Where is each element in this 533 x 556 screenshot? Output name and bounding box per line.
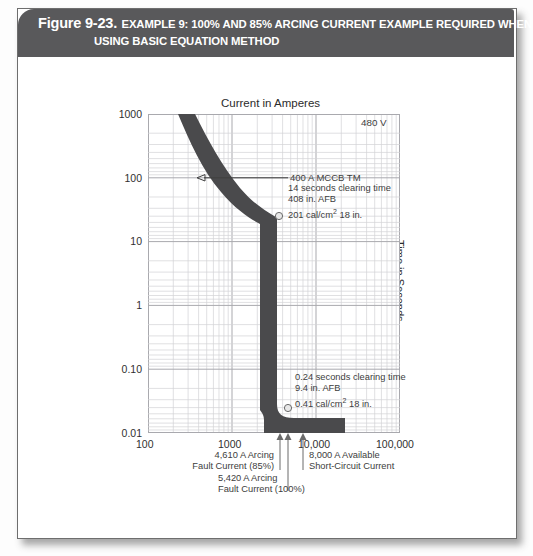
callout-available-sc-line-2: Short-Circuit Current [309,461,394,472]
upper-annotation-line-2: 408 in. AFB [288,194,391,205]
figure-caption-line-2: USING BASIC EQUATION METHOD [94,32,502,49]
figure-number: Figure 9-23. [38,15,117,31]
arrow-4610 [277,433,284,440]
callout-available-sc-line-1: 8,000 A Available [309,450,394,461]
figure-banner: Figure 9-23. EXAMPLE 9: 100% AND 85% ARC… [18,9,514,57]
callout-available-sc: 8,000 A Available Short-Circuit Current [309,450,394,473]
upper-annotation-block: 14 seconds clearing time 408 in. AFB 201… [288,183,391,221]
figure-page: Figure 9-23. EXAMPLE 9: 100% AND 85% ARC… [0,0,533,556]
callout-arcing-100-line-2: Fault Current (100%) [218,484,305,495]
y-tick-1: 1 [96,299,142,311]
marker-100-percent-point [275,212,282,219]
callout-arcing-100-line-1: 5,420 A Arcing [218,473,305,484]
lower-annotation-line-2: 9.4 in. AFB [295,383,406,394]
voltage-label: 480 V [361,117,387,128]
upper-annotation-line-3-pre: 201 cal/cm [288,210,333,220]
y-tick-1000: 1000 [96,108,142,120]
chart-title: Current in Amperes [221,97,320,109]
callout-arcing-85: 4,610 A Arcing Fault Current (85%) [160,450,274,473]
lower-annotation-line-3: 0.41 cal/cm2 18 in. [295,395,406,411]
figure-caption-line-1: Figure 9-23. EXAMPLE 9: 100% AND 85% ARC… [38,15,502,32]
y-tick-10: 10 [96,235,142,247]
callout-arcing-85-line-2: Fault Current (85%) [160,461,274,472]
upper-annotation-line-3: 201 cal/cm2 18 in. [288,206,391,222]
arrow-5420 [285,433,292,440]
callout-arcing-85-line-1: 4,610 A Arcing [160,450,274,461]
device-label: 400 A MCCB TM [290,172,361,183]
lower-annotation-line-3-pre: 0.41 cal/cm [295,399,343,409]
figure-caption-part-2: USING BASIC EQUATION METHOD [94,35,279,47]
lower-annotation-block: 0.24 seconds clearing time 9.4 in. AFB 0… [295,372,406,410]
marker-85-percent-point [284,404,291,411]
y-tick-0-10: 0.10 [96,363,142,375]
callout-arcing-100: 5,420 A Arcing Fault Current (100%) [218,473,305,496]
lower-annotation-line-1: 0.24 seconds clearing time [295,372,406,383]
lower-annotation-line-3-post: 18 in. [346,399,371,409]
figure-banner-text: Figure 9-23. EXAMPLE 9: 100% AND 85% ARC… [38,15,502,49]
arrow-8000 [300,433,307,440]
upper-annotation-line-1: 14 seconds clearing time [288,183,391,194]
figure-caption-part-1: EXAMPLE 9: 100% AND 85% ARCING CURRENT E… [121,18,532,30]
y-tick-100: 100 [96,172,142,184]
upper-annotation-line-3-post: 18 in. [337,210,362,220]
